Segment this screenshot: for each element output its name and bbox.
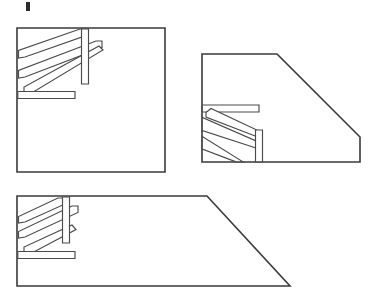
drawing-svg xyxy=(0,0,378,297)
registration-tick-icon xyxy=(26,2,30,11)
figure-square-wall-elevation xyxy=(17,28,165,172)
figure-3-railing-assembly xyxy=(18,197,78,259)
figure-3-newel-post xyxy=(63,197,70,243)
figure-trapezoid-wall-elevation xyxy=(17,196,290,286)
figure-1-newel-post xyxy=(82,29,89,84)
figure-3-landing-rail xyxy=(18,252,75,259)
figure-1-railing-assembly xyxy=(18,29,103,99)
figure-2-railing-assembly xyxy=(202,105,262,162)
figure-2-newel-post xyxy=(256,130,263,162)
technical-drawing-canvas: Stair Railing Elevation Views xyxy=(0,0,378,297)
figure-1-landing-rail xyxy=(18,92,75,99)
figure-chamfered-wall-elevation xyxy=(202,54,360,162)
figure-3-outline xyxy=(17,196,290,286)
